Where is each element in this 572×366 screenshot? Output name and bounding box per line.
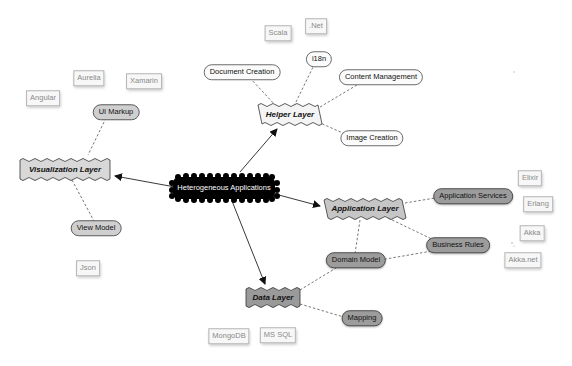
tech-tag-akka[interactable]: Akka xyxy=(520,225,545,241)
center-node-heterogeneous-applications[interactable]: Heterogeneous Applications xyxy=(177,184,270,192)
tech-tag-scala[interactable]: Scala xyxy=(265,25,292,41)
concept-domain-model[interactable]: Domain Model xyxy=(326,252,386,268)
mind-map-canvas xyxy=(0,0,572,366)
concept-content-management[interactable]: Content Management xyxy=(339,69,423,85)
tech-tag-ms-sql[interactable]: MS SQL xyxy=(260,327,296,343)
tech-tag-mongodb[interactable]: MongoDB xyxy=(208,328,249,344)
tech-tag-elixir[interactable]: Elixir xyxy=(518,170,542,186)
layer-node-helper[interactable]: Helper Layer xyxy=(266,111,314,119)
decorative-specks xyxy=(511,71,515,247)
concept-mapping[interactable]: Mapping xyxy=(342,310,383,326)
tech-tag-angular[interactable]: Angular xyxy=(26,90,60,106)
concept-application-services[interactable]: Application Services xyxy=(433,188,513,204)
layer-node-application[interactable]: Application Layer xyxy=(331,205,398,213)
layer-node-visualization[interactable]: Visualization Layer xyxy=(29,166,101,174)
concept-i18n[interactable]: i18n xyxy=(306,51,332,67)
concept-business-rules[interactable]: Business Rules xyxy=(426,237,490,253)
concept-view-model[interactable]: View Model xyxy=(71,220,122,236)
tech-tag-akka-net[interactable]: Akka.net xyxy=(504,252,541,268)
concept-document-creation[interactable]: Document Creation xyxy=(204,64,281,80)
tech-tag-json[interactable]: Json xyxy=(76,260,100,276)
tech-tag-dotnet[interactable]: .Net xyxy=(305,18,327,34)
concept-image-creation[interactable]: Image Creation xyxy=(340,130,403,146)
tech-tag-erlang[interactable]: Erlang xyxy=(523,196,553,212)
tech-tag-aurelia[interactable]: Aurelia xyxy=(73,70,104,86)
concept-ui-markup[interactable]: UI Markup xyxy=(93,104,140,120)
tech-tag-xamarin[interactable]: Xamarin xyxy=(126,73,162,89)
center-edges xyxy=(115,129,320,284)
layer-node-data[interactable]: Data Layer xyxy=(253,294,294,302)
